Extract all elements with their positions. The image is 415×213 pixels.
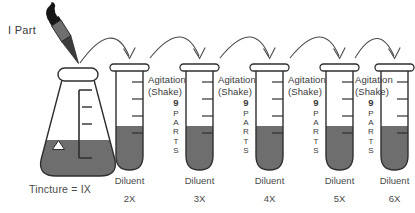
parts-letter: T	[310, 137, 322, 146]
agitation-line-2: (Shake)	[148, 86, 186, 98]
tincture-label: Tincture = IX	[29, 184, 91, 195]
potency-label-5: 6X	[369, 194, 415, 204]
test-tube-3	[250, 64, 290, 176]
diluent-label-5: Diluent	[369, 176, 415, 186]
parts-letter: A	[240, 118, 252, 127]
parts-letter: R	[365, 127, 377, 136]
parts-letter: A	[365, 118, 377, 127]
agitation-label-3: Agitation (Shake)	[288, 74, 326, 98]
parts-number: 9	[170, 98, 182, 109]
agitation-label-4: Agitation (Shake)	[355, 74, 393, 98]
parts-letter: R	[310, 127, 322, 136]
parts-letter: S	[240, 146, 252, 155]
test-tube-2	[180, 64, 220, 176]
transfer-arrow-group	[80, 37, 400, 63]
transfer-arrow	[220, 37, 275, 59]
parts-letter: S	[310, 146, 322, 155]
agitation-line-2: (Shake)	[218, 86, 256, 98]
parts-letter: T	[365, 137, 377, 146]
parts-letter: P	[240, 109, 252, 118]
potency-label-4: 5X	[314, 194, 365, 204]
parts-letter: T	[170, 137, 182, 146]
potency-label-3: 4X	[244, 194, 295, 204]
serial-dilution-diagram: I Part Tincture = IX Agitation (Shake) A…	[0, 0, 415, 213]
potency-label-2: 3X	[174, 194, 225, 204]
parts-letter: R	[240, 127, 252, 136]
parts-letter: A	[310, 118, 322, 127]
erlenmeyer-flask-icon	[30, 68, 130, 190]
agitation-line-1: Agitation	[355, 74, 393, 86]
parts-number: 9	[310, 98, 322, 109]
parts-letter: P	[310, 109, 322, 118]
test-tube-1	[110, 64, 150, 176]
parts-column-3: 9 P A R T S	[240, 98, 252, 156]
parts-number: 9	[240, 98, 252, 109]
parts-letter: A	[170, 118, 182, 127]
diluent-label-2: Diluent	[174, 176, 225, 186]
transfer-arrow	[150, 37, 205, 59]
diluent-label-1: Diluent	[104, 176, 155, 186]
parts-column-5: 9 P A R T S	[365, 98, 377, 156]
agitation-line-2: (Shake)	[355, 86, 393, 98]
parts-letter: T	[240, 137, 252, 146]
agitation-line-1: Agitation	[218, 74, 256, 86]
potency-label-1: 2X	[104, 194, 155, 204]
pipette-dropper-icon	[46, 2, 78, 63]
parts-letter: P	[170, 109, 182, 118]
parts-column-2: 9 P A R T S	[170, 98, 182, 156]
diluent-label-3: Diluent	[244, 176, 295, 186]
transfer-arrow	[355, 38, 400, 58]
agitation-line-1: Agitation	[148, 74, 186, 86]
test-tube-4	[320, 64, 360, 176]
agitation-line-2: (Shake)	[288, 86, 326, 98]
transfer-arrow	[290, 37, 345, 59]
agitation-label-2: Agitation (Shake)	[218, 74, 256, 98]
parts-column-4: 9 P A R T S	[310, 98, 322, 156]
parts-letter: S	[170, 146, 182, 155]
agitation-line-1: Agitation	[288, 74, 326, 86]
parts-number: 9	[365, 98, 377, 109]
parts-letter: R	[170, 127, 182, 136]
agitation-label-1: Agitation (Shake)	[148, 74, 186, 98]
dropper-part-label: I Part	[8, 25, 36, 36]
transfer-arrow	[80, 38, 135, 63]
diluent-label-4: Diluent	[314, 176, 365, 186]
parts-letter: P	[365, 109, 377, 118]
parts-letter: S	[365, 146, 377, 155]
